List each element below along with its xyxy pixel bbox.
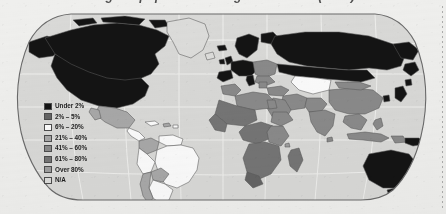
legend-label: 2% – 5% <box>55 114 80 120</box>
legend-label: 41% – 60% <box>55 145 87 151</box>
page-margin-rule <box>442 6 443 210</box>
legend-swatch <box>44 156 52 163</box>
legend-item: 2% – 5% <box>44 112 87 123</box>
legend-swatch <box>44 103 52 110</box>
page-title-text: Percentage of population using the inter… <box>52 0 355 3</box>
legend-item: 6% – 20% <box>44 122 87 133</box>
legend-label: Under 2% <box>55 103 84 109</box>
legend-swatch <box>44 124 52 131</box>
legend-item: N/A <box>44 175 87 186</box>
legend-item: 21% – 40% <box>44 133 87 144</box>
legend-item: 41% – 60% <box>44 143 87 154</box>
legend-swatch <box>44 166 52 173</box>
legend-swatch <box>44 135 52 142</box>
legend-item: Under 2% <box>44 101 87 112</box>
scanned-page: Percentage of population using the inter… <box>0 0 446 214</box>
legend-swatch <box>44 177 52 184</box>
legend-label: 6% – 20% <box>55 124 84 130</box>
legend-label: 21% – 40% <box>55 135 87 141</box>
legend-label: N/A <box>55 177 66 183</box>
legend-label: Over 80% <box>55 167 84 173</box>
legend-item: Over 80% <box>44 165 87 176</box>
legend-item: 61% – 80% <box>44 154 87 165</box>
map-legend: Under 2% 2% – 5% 6% – 20% 21% – 40% 41% … <box>42 99 90 188</box>
page-title-cropped: Percentage of population using the inter… <box>0 0 446 9</box>
legend-label: 61% – 80% <box>55 156 87 162</box>
legend-swatch <box>44 113 52 120</box>
legend-swatch <box>44 145 52 152</box>
world-map-figure: Under 2% 2% – 5% 6% – 20% 21% – 40% 41% … <box>9 8 437 207</box>
